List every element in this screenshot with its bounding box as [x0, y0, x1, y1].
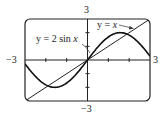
y-tick-bottom-label: −3: [81, 104, 92, 114]
annotation-sin-var: x: [73, 33, 77, 44]
arrowhead-yx-icon: [129, 26, 134, 30]
annotation-yx-label: y = x: [97, 20, 117, 30]
chart-svg: [0, 0, 165, 117]
annotation-yx-var: x: [113, 19, 117, 30]
annotation-arrow-sin: [82, 44, 90, 53]
x-tick-right-label: 3: [153, 55, 158, 65]
annotation-yx-text: y =: [97, 19, 113, 30]
annotation-sin-text: y = 2 sin: [36, 33, 73, 44]
annotation-sin-label: y = 2 sin x: [36, 34, 78, 44]
x-tick-left-label: −3: [6, 55, 17, 65]
y-tick-top-label: 3: [84, 5, 89, 15]
